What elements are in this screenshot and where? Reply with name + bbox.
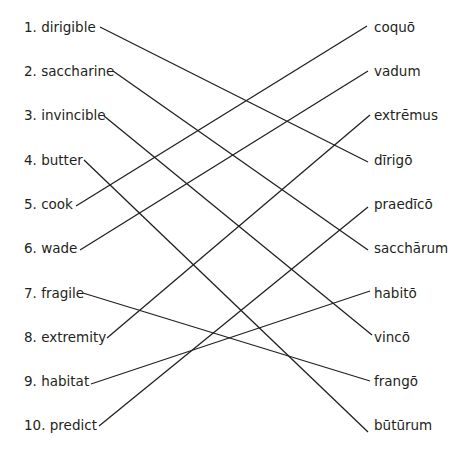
latin-word-coquo: coquō — [374, 19, 415, 35]
latin-word-vinco: vincō — [374, 329, 410, 345]
english-word-5: 5. cook — [24, 196, 73, 212]
latin-word-habito: habitō — [374, 285, 417, 301]
english-word-6: 6. wade — [24, 240, 77, 256]
english-word-1: 1. dirigible — [24, 19, 96, 35]
line-habitat-habito — [91, 291, 370, 384]
line-dirigible-dirigo — [100, 27, 368, 162]
latin-word-praedico: praedīcō — [374, 196, 433, 212]
latin-word-extremus: extrēmus — [374, 107, 438, 123]
line-butter-buturum — [84, 160, 368, 432]
latin-word-frango: frangō — [374, 373, 418, 389]
latin-word-vadum: vadum — [374, 63, 421, 79]
english-word-8: 8. extremity — [24, 329, 106, 345]
english-word-4: 4. butter — [24, 152, 83, 168]
english-word-10: 10. predict — [24, 417, 97, 433]
latin-word-saccharum: sacchārum — [374, 240, 448, 256]
english-word-7: 7. fragile — [24, 285, 84, 301]
line-cook-coquo — [76, 26, 367, 206]
latin-word-buturum: būtūrum — [374, 417, 432, 433]
english-word-2: 2. saccharine — [24, 63, 114, 79]
english-word-3: 3. invincible — [24, 107, 106, 123]
line-wade-vadum — [80, 71, 368, 250]
line-invincible-vinco — [104, 116, 372, 335]
line-fragile-frango — [83, 293, 370, 381]
english-word-9: 9. habitat — [24, 373, 89, 389]
latin-word-dirigo: dīrigō — [374, 152, 412, 168]
